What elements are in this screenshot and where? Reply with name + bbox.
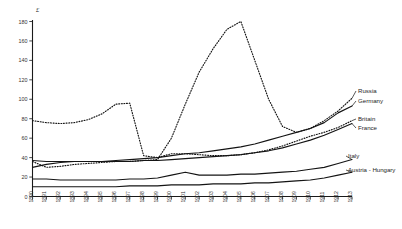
y-tick-label: 120 [19,77,28,83]
x-tick-label: 1896 [111,191,117,202]
legend-leader-line [352,101,356,106]
x-tick-label: 1905 [236,191,242,202]
x-tick-label: 1891 [41,191,47,202]
x-tick-label: 1910 [305,191,311,202]
legend-label-france: France [358,124,378,131]
x-tick-label: 1906 [250,191,256,202]
legend-label-austria-hungary: Austria - Hungary [348,166,396,173]
y-axis-ticks: 020406080100120140160180 [19,19,33,200]
chart-container: £ 020406080100120140160180 1890189118921… [0,0,402,229]
series-line-france [33,124,353,162]
x-tick-label: 1904 [222,191,228,202]
x-tick-label: 1911 [319,191,325,202]
legend-leader-line [352,91,356,98]
x-tick-label: 1894 [83,191,89,202]
series-line-italy [33,160,353,180]
x-tick-label: 1892 [55,191,61,202]
legend-leader-line [352,119,356,121]
x-tick-label: 1909 [291,191,297,202]
y-tick-label: 60 [22,135,28,141]
y-tick-label: 80 [22,116,28,122]
x-tick-label: 1902 [194,191,200,202]
x-tick-label: 1898 [139,191,145,202]
series-layer [33,22,353,187]
legend-layer: RussiaGermanyBritainFranceItalyAustria -… [346,87,396,173]
x-tick-label: 1897 [125,191,131,202]
y-axis-unit-group: £ [36,6,40,13]
x-tick-label: 1895 [97,191,103,202]
y-tick-label: 20 [22,174,28,180]
x-tick-label: 1890 [28,191,34,202]
x-tick-label: 1900 [166,191,172,202]
legend-label-russia: Russia [358,87,377,94]
y-tick-label: 140 [19,57,28,63]
y-tick-label: 180 [19,19,28,25]
x-tick-label: 1908 [278,191,284,202]
y-axis-unit-label: £ [36,6,40,13]
x-tick-label: 1899 [153,191,159,202]
x-tick-label: 1901 [180,191,186,202]
x-tick-label: 1907 [264,191,270,202]
legend-label-italy: Italy [348,152,360,159]
x-tick-label: 1903 [208,191,214,202]
x-tick-label: 1893 [69,191,75,202]
legend-label-britain: Britain [358,115,375,122]
x-tick-label: 1913 [347,191,353,202]
x-tick-label: 1912 [333,191,339,202]
series-line-russia [33,22,353,168]
legend-label-germany: Germany [358,97,384,104]
y-tick-label: 160 [19,38,28,44]
legend-leader-line [352,124,356,128]
y-tick-label: 100 [19,96,28,102]
y-tick-label: 40 [22,155,28,161]
line-chart: £ 020406080100120140160180 1890189118921… [0,0,402,229]
